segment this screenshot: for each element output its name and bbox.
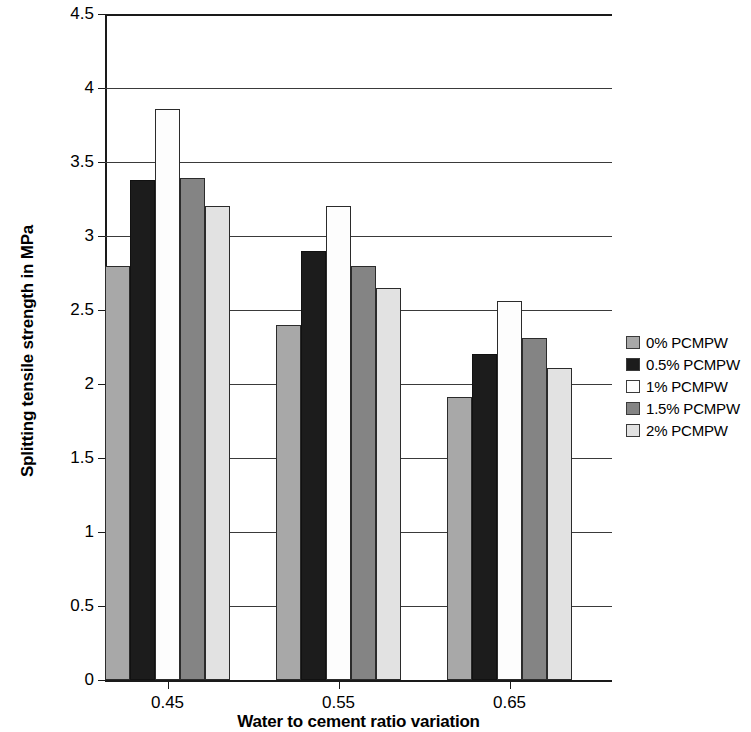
y-axis-tick-mark [98,384,105,385]
legend-label: 1.5% PCMPW [646,400,740,417]
chart-figure: Splitting tensile strength in MPa 00.511… [0,0,751,732]
legend-swatch-icon [626,424,640,437]
bar-0.65-series-2 [497,301,522,680]
legend-swatch-icon [626,380,640,393]
bar-0.55-series-1 [301,251,326,680]
y-axis-tick-mark [98,88,105,89]
y-axis-tick-label: 0.5 [24,596,94,616]
plot-area: 00.511.522.533.544.5 0.450.550.65 [105,14,612,682]
bar-0.55-series-4 [376,288,401,680]
y-axis-tick-mark [98,458,105,459]
legend-label: 0% PCMPW [646,334,728,351]
y-axis-tick-mark [98,680,105,681]
bar-0.55-series-2 [326,206,351,680]
legend-item: 1% PCMPW [626,375,740,397]
legend-item: 1.5% PCMPW [626,397,740,419]
bar-0.65-series-3 [522,338,547,680]
y-axis-tick-mark [98,532,105,533]
y-axis-tick-mark [98,14,105,15]
bar-0.45-series-0 [105,266,130,680]
bar-0.55-series-0 [276,325,301,680]
y-axis-tick-label: 4.5 [24,4,94,24]
bar-0.65-series-1 [472,354,497,680]
bar-0.65-series-4 [547,368,572,680]
y-axis-tick-label: 3 [24,226,94,246]
gridline [105,162,612,163]
y-axis-tick-label: 0 [24,670,94,690]
legend-label: 2% PCMPW [646,422,728,439]
x-axis-tick-mark [168,682,169,689]
legend-label: 1% PCMPW [646,378,728,395]
x-axis-tick-label: 0.45 [151,693,184,713]
legend-label: 0.5% PCMPW [646,356,740,373]
bar-0.45-series-1 [130,180,155,680]
y-axis-tick-mark [98,162,105,163]
x-axis-tick-mark [339,682,340,689]
legend-swatch-icon [626,402,640,415]
y-axis-tick-label: 1 [24,522,94,542]
x-axis-title: Water to cement ratio variation [105,712,612,732]
x-axis-tick-label: 0.55 [322,693,355,713]
y-axis-tick-label: 2 [24,374,94,394]
legend-swatch-icon [626,336,640,349]
bar-0.45-series-4 [205,206,230,680]
y-axis-tick-label: 2.5 [24,300,94,320]
legend-item: 2% PCMPW [626,419,740,441]
bar-0.45-series-3 [180,178,205,680]
bar-0.65-series-0 [447,397,472,680]
legend-swatch-icon [626,358,640,371]
bar-0.45-series-2 [155,109,180,680]
bar-0.55-series-3 [351,266,376,680]
x-axis-tick-mark [510,682,511,689]
y-axis-tick-mark [98,606,105,607]
y-axis-tick-label: 3.5 [24,152,94,172]
y-axis-tick-mark [98,236,105,237]
legend-item: 0% PCMPW [626,331,740,353]
y-axis-tick-mark [98,310,105,311]
x-axis-line [105,680,612,682]
legend-item: 0.5% PCMPW [626,353,740,375]
x-axis-tick-label: 0.65 [493,693,526,713]
chart-legend: 0% PCMPW0.5% PCMPW1% PCMPW1.5% PCMPW2% P… [626,331,740,441]
gridline [105,14,612,16]
gridline [105,88,612,89]
y-axis-tick-label: 1.5 [24,448,94,468]
y-axis-tick-label: 4 [24,78,94,98]
